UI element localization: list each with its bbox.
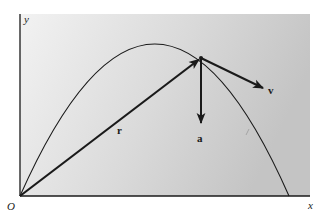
trajectory-diagram: y x O r a v [0, 0, 327, 217]
plot-panel [20, 14, 310, 196]
acceleration-vector-label: a [197, 132, 203, 144]
particle-point [199, 56, 203, 60]
origin-label: O [7, 200, 15, 212]
x-axis-label: x [307, 199, 313, 211]
y-axis-label: y [23, 13, 29, 25]
position-vector-label: r [117, 124, 122, 136]
velocity-vector-label: v [268, 84, 274, 96]
